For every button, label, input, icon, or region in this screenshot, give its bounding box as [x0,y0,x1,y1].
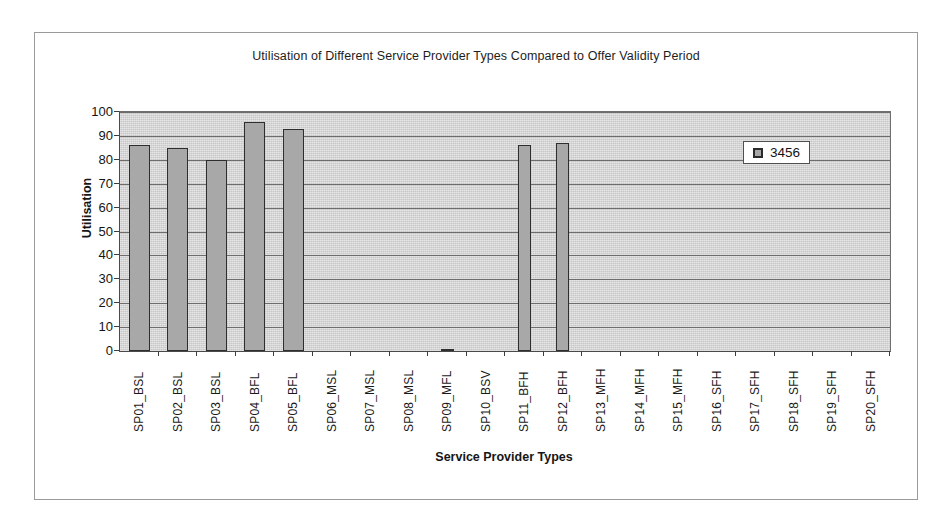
x-axis-tick-mark [273,351,274,356]
x-axis-category-label: SP18_SFH [787,370,801,432]
x-axis-category-label: SP04_BFL [248,372,262,432]
y-axis-tick-mark [114,278,119,279]
y-axis-tick-label: 40 [67,248,113,261]
y-axis-tick-label: 80 [67,153,113,166]
x-axis-tick-mark [235,351,236,356]
x-axis-tick-mark [658,351,659,356]
x-axis-tick-mark [350,351,351,356]
x-axis-tick-mark [504,351,505,356]
x-axis-category-label: SP08_MSL [402,370,416,432]
bar [441,349,454,351]
x-axis-tick-mark [620,351,621,356]
gridline [120,232,890,233]
y-axis-tick-label: 50 [67,225,113,238]
x-axis-tick-mark [581,351,582,356]
legend-swatch-icon [753,148,763,158]
legend-label: 3456 [770,146,800,160]
x-axis-category-label: SP02_BSL [171,372,185,432]
gridline [120,184,890,185]
y-axis-tick-label: 0 [67,344,113,357]
y-axis-tick-mark [114,207,119,208]
y-axis-tick-label: 90 [67,129,113,142]
gridline [120,208,890,209]
y-axis-tick-label: 10 [67,320,113,333]
chart-title: Utilisation of Different Service Provide… [35,49,917,63]
gridline [120,112,890,113]
bar [556,143,569,351]
x-axis-tick-mark [812,351,813,356]
x-axis-tick-mark [697,351,698,356]
y-axis-tick-mark [114,350,119,351]
chart-legend: 3456 [743,141,810,164]
y-axis-tick-mark [114,326,119,327]
bar [167,148,188,351]
x-axis-category-label: SP10_BSV [479,370,493,432]
x-axis-tick-mark [312,351,313,356]
x-axis-category-label: SP05_BFL [286,372,300,432]
y-axis-tick-mark [114,111,119,112]
y-axis-tick-label: 20 [67,296,113,309]
gridline [120,255,890,256]
y-axis-tick-label: 30 [67,272,113,285]
gridline [120,327,890,328]
chart-frame: Utilisation of Different Service Provide… [34,32,918,500]
y-axis-tick-mark [114,231,119,232]
bar [283,129,304,351]
y-axis-tick-mark [114,135,119,136]
bar [206,160,227,351]
x-axis-category-label: SP17_SFH [748,370,762,432]
x-axis-tick-mark [889,351,890,356]
x-axis-tick-mark [389,351,390,356]
y-axis-tick-label: 60 [67,201,113,214]
x-axis-tick-mark [196,351,197,356]
gridline [120,136,890,137]
y-axis-tick-mark [114,254,119,255]
gridline [120,279,890,280]
y-axis-tick-mark [114,302,119,303]
x-axis-tick-mark [774,351,775,356]
x-axis-title: Service Provider Types [119,450,889,464]
y-axis-tick-mark [114,183,119,184]
x-axis-tick-mark [851,351,852,356]
x-axis-tick-mark [466,351,467,356]
bar [518,145,531,351]
x-axis-category-label: SP07_MSL [363,370,377,432]
x-axis-category-label: SP09_MFL [440,370,454,432]
gridline [120,303,890,304]
x-axis-category-label: SP03_BSL [209,372,223,432]
x-axis-category-label: SP01_BSL [132,372,146,432]
bar [244,122,265,351]
x-axis-category-label: SP15_MFH [671,368,685,432]
x-axis-category-label: SP11_BFH [517,371,531,432]
y-axis-tick-label: 100 [67,105,113,118]
x-axis-tick-mark [735,351,736,356]
bar [129,145,150,351]
x-axis-category-label: SP06_MSL [325,370,339,432]
y-axis-tick-mark [114,159,119,160]
x-axis-category-label: SP19_SFH [825,370,839,432]
x-axis-category-label: SP12_BFH [556,370,570,432]
x-axis-category-label: SP20_SFH [864,370,878,432]
x-axis-tick-mark [427,351,428,356]
x-axis-category-label: SP13_MFH [594,368,608,432]
x-axis-tick-mark [158,351,159,356]
x-axis-category-label: SP16_SFH [710,370,724,432]
x-axis-tick-mark [543,351,544,356]
y-axis-tick-label: 70 [67,177,113,190]
x-axis-category-label: SP14_MFH [633,368,647,432]
